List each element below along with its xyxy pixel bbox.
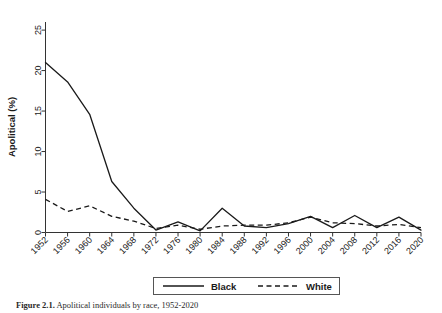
legend-label-white: White [306, 281, 332, 292]
y-tick-label-15: 15 [33, 106, 43, 116]
x-tick-label-1968: 1968 [117, 235, 138, 256]
x-tick-label-1992: 1992 [250, 235, 271, 256]
series-line-black [46, 62, 422, 230]
x-tick-label-2016: 2016 [382, 235, 403, 256]
x-axis: 1952195619601964196819721976198019841988… [29, 233, 426, 257]
x-tick-label-1952: 1952 [29, 235, 50, 256]
x-tick-label-1988: 1988 [227, 235, 248, 256]
y-tick-label-10: 10 [33, 147, 43, 157]
x-tick-label-2008: 2008 [338, 235, 359, 256]
x-tick-marks [46, 233, 422, 237]
y-tick-label-0: 0 [33, 230, 43, 235]
x-tick-label-1996: 1996 [272, 235, 293, 256]
x-tick-label-1980: 1980 [183, 235, 204, 256]
x-tick-label-1956: 1956 [51, 235, 72, 256]
figure-caption: Figure 2.1. Apolitical individuals by ra… [16, 300, 436, 310]
x-tick-label-2000: 2000 [294, 235, 315, 256]
y-axis-label: Apolitical (%) [6, 97, 17, 157]
x-tick-label-1964: 1964 [95, 235, 116, 256]
x-tick-labels: 1952195619601964196819721976198019841988… [29, 235, 426, 256]
x-tick-label-2020: 2020 [404, 235, 425, 256]
legend-label-black: Black [211, 281, 237, 292]
y-axis: 0510152025 Apolitical (%) [6, 22, 46, 235]
x-tick-label-2012: 2012 [360, 235, 381, 256]
caption-label: Figure 2.1. [16, 300, 55, 310]
apolitical-by-race-line-chart: 0510152025 Apolitical (%) 19521956196019… [0, 0, 442, 313]
x-tick-label-2004: 2004 [316, 235, 337, 256]
x-tick-label-1976: 1976 [161, 235, 182, 256]
x-tick-label-1972: 1972 [139, 235, 160, 256]
figure-container: 0510152025 Apolitical (%) 19521956196019… [0, 0, 442, 313]
y-tick-label-20: 20 [33, 66, 43, 76]
x-tick-label-1960: 1960 [73, 235, 94, 256]
data-series-group [46, 62, 422, 230]
series-line-white [46, 199, 422, 229]
chart-legend: Black White [154, 278, 340, 295]
caption-text: Apolitical individuals by race, 1952-202… [56, 300, 198, 310]
y-tick-marks [42, 30, 46, 232]
x-tick-label-1984: 1984 [205, 235, 226, 256]
y-tick-label-5: 5 [33, 190, 43, 195]
y-tick-labels: 0510152025 [33, 25, 43, 235]
y-tick-label-25: 25 [33, 25, 43, 35]
